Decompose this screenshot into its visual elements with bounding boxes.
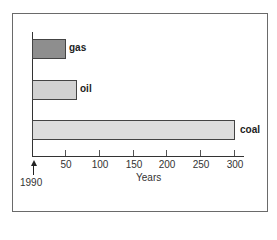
bar-gas [32,39,66,59]
arrow-stem [33,165,34,175]
x-axis [32,156,244,157]
tick-label-100: 100 [92,159,109,170]
tick-50 [65,150,66,156]
bar-oil [32,80,77,100]
tick-label-150: 150 [126,159,143,170]
arrow-up-icon [31,160,37,166]
tick-150 [133,150,134,156]
tick-300 [234,150,235,156]
bar-label-gas: gas [69,42,86,53]
tick-100 [99,150,100,156]
tick-label-200: 200 [159,159,176,170]
tick-200 [166,150,167,156]
bar-coal [32,120,235,140]
tick-label-50: 50 [60,159,71,170]
tick-250 [200,150,201,156]
x-axis-label: Years [136,172,161,183]
bar-label-oil: oil [80,83,92,94]
tick-label-250: 250 [193,159,210,170]
origin-label: 1990 [20,177,42,188]
bar-label-coal: coal [240,124,260,135]
tick-label-300: 300 [227,159,244,170]
